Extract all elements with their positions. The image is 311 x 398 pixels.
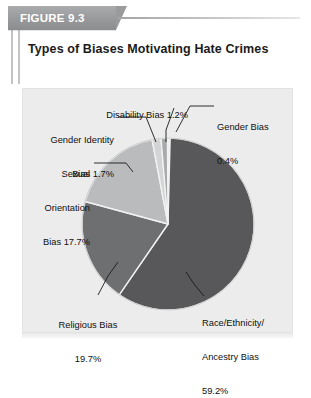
left-rule-inner xyxy=(18,30,20,84)
label-race-ethnicity-ancestry-bias: Race/Ethnicity/ Ancestry Bias 59.2% xyxy=(202,296,300,398)
label-sexual-orientation-bias-line1: Sexual xyxy=(20,169,90,180)
label-race-line3: 59.2% xyxy=(202,386,300,397)
label-race-line1: Race/Ethnicity/ xyxy=(202,318,300,329)
label-race-line2: Ancestry Bias xyxy=(202,352,300,363)
label-religious-bias: Religious Bias 19.7% xyxy=(40,298,136,388)
label-sexual-orientation-bias-line3: Bias 17.7% xyxy=(20,237,90,248)
page-title: Types of Biases Motivating Hate Crimes xyxy=(28,42,268,56)
label-gender-identity-bias-line1: Gender Identity xyxy=(28,135,114,146)
label-gender-bias-line2: 0.4% xyxy=(217,156,299,167)
label-sexual-orientation-bias-line2: Orientation xyxy=(20,203,90,214)
label-religious-bias-line1: Religious Bias xyxy=(40,320,136,331)
figure-number: 9.3 xyxy=(68,12,85,24)
figure-number-label: FIGURE 9.3 xyxy=(20,12,85,24)
label-sexual-orientation-bias: Sexual Orientation Bias 17.7% xyxy=(20,147,90,270)
label-disability-bias-line1: Disability Bias 1.2% xyxy=(106,110,188,120)
label-gender-bias-line1: Gender Bias xyxy=(217,122,299,133)
label-gender-bias: Gender Bias 0.4% xyxy=(217,100,299,190)
figure-word: FIGURE xyxy=(20,12,65,24)
label-religious-bias-line2: 19.7% xyxy=(40,354,136,365)
figure-number-banner: FIGURE 9.3 xyxy=(8,6,116,30)
banner-trailing-rule xyxy=(118,17,300,19)
